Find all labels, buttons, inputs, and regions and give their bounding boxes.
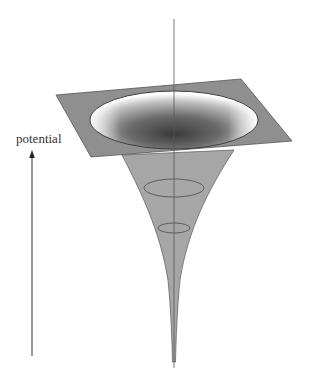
diagram-canvas [0,0,311,374]
arrow-up-icon [29,150,35,158]
funnel-surface [122,150,234,362]
potential-axis-label: potential [16,131,62,147]
potential-well-diagram: potential [0,0,311,374]
